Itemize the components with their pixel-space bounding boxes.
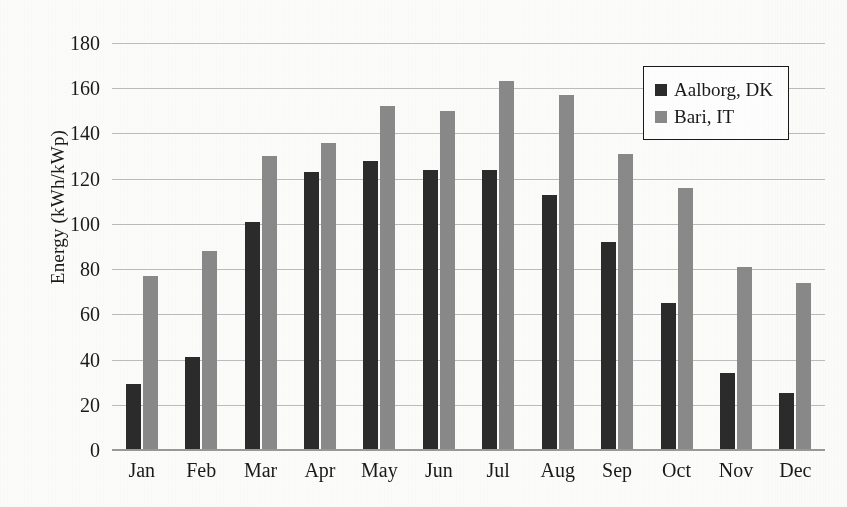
- y-axis-tick-label: 40: [58, 350, 100, 370]
- x-axis-tick-label: Jan: [112, 455, 171, 487]
- x-axis-tick-label: Aug: [528, 455, 587, 487]
- x-axis-tick-label: Nov: [706, 455, 765, 487]
- legend-entry[interactable]: Aalborg, DK: [655, 76, 788, 103]
- bar[interactable]: [779, 393, 794, 450]
- bar[interactable]: [245, 222, 260, 450]
- bar[interactable]: [321, 143, 336, 451]
- x-axis-tick-label: Jul: [469, 455, 528, 487]
- gray-square-swatch-icon: [655, 111, 667, 123]
- bar[interactable]: [262, 156, 277, 450]
- x-axis-tick-label: Feb: [171, 455, 230, 487]
- y-axis-tick-label: 180: [58, 33, 100, 53]
- x-axis-tick-label: Oct: [647, 455, 706, 487]
- dark-square-swatch-icon: [655, 84, 667, 96]
- y-axis-tick-label: 20: [58, 395, 100, 415]
- x-axis-tick-label: Dec: [766, 455, 825, 487]
- bar[interactable]: [423, 170, 438, 450]
- bar-group: [231, 43, 290, 450]
- bar[interactable]: [363, 161, 378, 450]
- bar[interactable]: [499, 81, 514, 450]
- bar[interactable]: [601, 242, 616, 450]
- bar[interactable]: [185, 357, 200, 450]
- legend-entry-label: Bari, IT: [674, 107, 734, 126]
- bar[interactable]: [482, 170, 497, 450]
- x-axis-tick-labels: JanFebMarAprMayJunJulAugSepOctNovDec: [112, 455, 825, 487]
- x-axis-tick-label: Mar: [231, 455, 290, 487]
- bar-group: [587, 43, 646, 450]
- bar[interactable]: [143, 276, 158, 450]
- gridline: [112, 450, 825, 451]
- bar[interactable]: [380, 106, 395, 450]
- y-axis-tick-label: 0: [58, 440, 100, 460]
- bar[interactable]: [202, 251, 217, 450]
- bar-group: [171, 43, 230, 450]
- bar-group: [112, 43, 171, 450]
- x-axis-tick-label: Jun: [409, 455, 468, 487]
- chart-legend: Aalborg, DK Bari, IT: [643, 66, 789, 140]
- bar[interactable]: [304, 172, 319, 450]
- bar[interactable]: [559, 95, 574, 450]
- y-axis-tick-label: 140: [58, 123, 100, 143]
- y-axis-tick-label: 80: [58, 259, 100, 279]
- bar[interactable]: [796, 283, 811, 450]
- bar-chart-figure: Energy (kWh/kWp) 02040608010012014016018…: [0, 0, 847, 507]
- bar-group: [350, 43, 409, 450]
- bar-group: [469, 43, 528, 450]
- bar-group: [409, 43, 468, 450]
- bar[interactable]: [542, 195, 557, 451]
- bar[interactable]: [737, 267, 752, 450]
- bar-group: [528, 43, 587, 450]
- x-axis-tick-label: Sep: [587, 455, 646, 487]
- bar[interactable]: [661, 303, 676, 450]
- y-axis-tick-label: 160: [58, 78, 100, 98]
- bar[interactable]: [678, 188, 693, 450]
- bar[interactable]: [440, 111, 455, 450]
- y-axis-tick-label: 60: [58, 304, 100, 324]
- bar[interactable]: [720, 373, 735, 450]
- x-axis-tick-label: May: [350, 455, 409, 487]
- bar[interactable]: [126, 384, 141, 450]
- legend-entry[interactable]: Bari, IT: [655, 103, 788, 130]
- bar[interactable]: [618, 154, 633, 450]
- bar-group: [290, 43, 349, 450]
- y-axis-tick-label: 100: [58, 214, 100, 234]
- x-axis-line: [112, 449, 825, 450]
- y-axis-tick-label: 120: [58, 169, 100, 189]
- legend-entry-label: Aalborg, DK: [674, 80, 773, 99]
- y-axis-tick-labels: 020406080100120140160180: [55, 0, 100, 507]
- x-axis-tick-label: Apr: [290, 455, 349, 487]
